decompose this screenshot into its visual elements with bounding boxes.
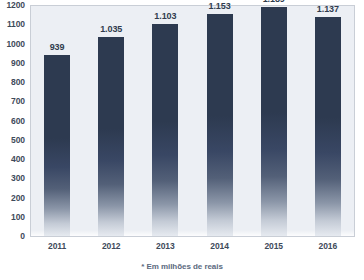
y-axis-tick-label: 200 <box>11 193 25 203</box>
y-axis-tick-label: 700 <box>11 96 25 106</box>
y-axis-tick-label: 300 <box>11 173 25 183</box>
x-axis-tick-label: 2015 <box>247 241 301 251</box>
y-axis-tick-label: 1200 <box>6 0 25 10</box>
bars-layer: 9391.0351.1031.1531.1891.137 <box>30 5 355 236</box>
bar-value-label: 939 <box>50 42 65 52</box>
y-axis-tick-label: 100 <box>11 212 25 222</box>
y-axis-tick-label: 1100 <box>7 19 25 29</box>
y-axis-tick-label: 800 <box>11 77 25 87</box>
bar-group: 1.189 <box>247 5 301 236</box>
bar-group: 1.153 <box>193 5 247 236</box>
chart-footnote: * Em milhões de reais <box>0 262 364 271</box>
bar-value-label: 1.137 <box>317 4 339 14</box>
bar-group: 1.035 <box>84 5 138 236</box>
bar-group: 1.137 <box>301 5 355 236</box>
bar-value-label: 1.103 <box>154 11 176 21</box>
y-axis: 1200110010009008007006005004003002001000 <box>0 0 28 240</box>
bar <box>315 17 341 236</box>
x-axis: 201120122013201420152016 <box>30 241 355 255</box>
bar <box>44 55 70 236</box>
y-axis-tick-label: 1000 <box>6 39 25 49</box>
y-axis-tick-label: 0 <box>20 231 25 241</box>
bar-group: 1.103 <box>138 5 192 236</box>
bar <box>98 37 124 236</box>
bar-chart: 1200110010009008007006005004003002001000… <box>0 0 364 280</box>
x-axis-tick-label: 2011 <box>30 241 84 251</box>
y-axis-tick-label: 600 <box>11 116 25 126</box>
y-axis-tick-label: 900 <box>11 58 25 68</box>
x-axis-tick-label: 2013 <box>138 241 192 251</box>
bar <box>261 7 287 236</box>
bar-value-label: 1.035 <box>100 24 122 34</box>
bar-group: 939 <box>30 5 84 236</box>
y-axis-tick-label: 400 <box>11 154 25 164</box>
bar <box>152 24 178 236</box>
bar-value-label: 1.189 <box>263 0 285 4</box>
bar <box>207 14 233 236</box>
x-axis-tick-label: 2012 <box>84 241 138 251</box>
y-axis-tick-label: 500 <box>11 135 25 145</box>
bar-value-label: 1.153 <box>209 1 231 11</box>
x-axis-tick-label: 2014 <box>193 241 247 251</box>
x-axis-tick-label: 2016 <box>301 241 355 251</box>
